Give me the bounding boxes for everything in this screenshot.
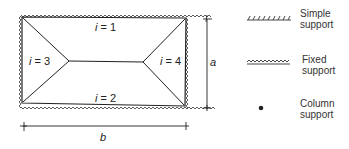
dimension-b-label: b — [100, 131, 106, 143]
panel-label-i2: i = 2 — [95, 92, 116, 104]
panel-label-i3: i = 3 — [29, 55, 50, 67]
legend-simple-support: Simplesupport — [300, 8, 333, 30]
slab-yield-line-diagram — [0, 0, 349, 149]
panel-label-i4: i = 4 — [160, 55, 181, 67]
panel-label-i1: ii = 1 = 1 — [95, 21, 116, 33]
fixed-support-symbol — [247, 60, 290, 64]
simple-support-symbol — [247, 16, 291, 20]
dimension-a-label: a — [210, 56, 216, 68]
legend-fixed-support: Fixedsupport — [302, 54, 335, 76]
column-support-symbol — [259, 106, 264, 111]
dimension-b — [20, 122, 189, 131]
legend-column-support: Columnsupport — [300, 98, 334, 120]
